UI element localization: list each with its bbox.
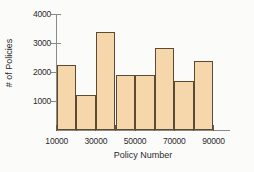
- y-axis-tick-label-text: 1000: [13, 97, 51, 106]
- y-axis-tick-label-text: 4000: [13, 10, 51, 19]
- x-axis-line: [56, 130, 230, 131]
- x-axis-tick-label: 50000: [113, 136, 157, 146]
- histogram-bar: [116, 75, 136, 130]
- histogram-bar: [96, 32, 116, 130]
- histogram-bar: [194, 61, 214, 130]
- y-axis-tick-label-text: 2000: [13, 68, 51, 77]
- x-axis-tick-label: 70000: [152, 136, 196, 146]
- histogram-figure: 1000200030004000 10000300005000070000900…: [0, 0, 254, 172]
- y-axis-tick: [51, 43, 61, 44]
- histogram-bar: [135, 75, 155, 130]
- histogram-bar: [155, 48, 175, 130]
- x-axis-tick-label: 90000: [192, 136, 236, 146]
- y-axis-tick-label-text: 3000: [13, 39, 51, 48]
- y-axis-tick: [51, 14, 61, 15]
- x-axis-tick-label: 10000: [35, 136, 79, 146]
- histogram-bar: [174, 81, 194, 130]
- x-axis-tick-label: 30000: [74, 136, 118, 146]
- histogram-bar: [57, 65, 77, 130]
- x-axis-title: Policy Number: [56, 150, 230, 160]
- histogram-bar: [76, 95, 96, 130]
- y-axis-title: # of Policies: [4, 18, 14, 108]
- plot-area: 1000200030004000 10000300005000070000900…: [0, 0, 254, 172]
